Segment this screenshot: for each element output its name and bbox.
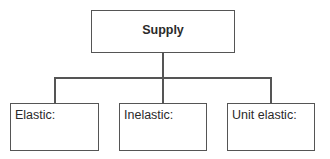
child-box-inelastic: Inelastic: xyxy=(119,103,207,151)
connector-unit-elastic xyxy=(270,77,272,103)
connector-root-down xyxy=(162,53,164,78)
connector-inelastic xyxy=(162,77,164,103)
child-box-unit-elastic: Unit elastic: xyxy=(227,103,315,151)
child-label-elastic: Elastic: xyxy=(15,108,55,122)
child-label-inelastic: Inelastic: xyxy=(124,108,173,122)
child-label-unit-elastic: Unit elastic: xyxy=(232,108,297,122)
root-box-supply: Supply xyxy=(91,10,235,53)
root-label: Supply xyxy=(92,23,234,37)
connector-elastic xyxy=(54,77,56,103)
child-box-elastic: Elastic: xyxy=(10,103,99,151)
